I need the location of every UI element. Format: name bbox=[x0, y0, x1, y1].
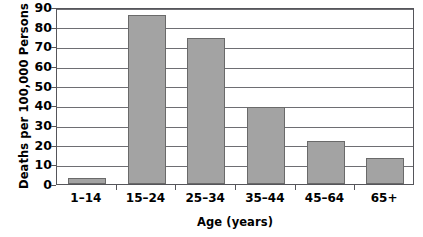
y-axis-tick-label: 60 bbox=[22, 61, 52, 74]
y-axis-tick-label: 40 bbox=[22, 100, 52, 113]
x-axis-tick-mark bbox=[354, 185, 355, 190]
x-axis-title: Age (years) bbox=[56, 215, 414, 229]
y-axis-tick-label: 70 bbox=[22, 41, 52, 54]
y-axis-tick-label: 80 bbox=[22, 21, 52, 34]
x-axis-tick-label: 1–14 bbox=[70, 191, 101, 205]
y-axis-tick-mark bbox=[51, 185, 56, 186]
y-axis-tick-label: 10 bbox=[22, 159, 52, 172]
y-axis-tick-label: 50 bbox=[22, 80, 52, 93]
x-axis-tick-mark bbox=[116, 185, 117, 190]
plot-area bbox=[56, 8, 414, 185]
x-axis-tick-mark bbox=[175, 185, 176, 190]
bar bbox=[187, 38, 225, 184]
bar bbox=[128, 15, 166, 184]
y-axis-tick-label: 90 bbox=[22, 2, 52, 15]
bar bbox=[366, 158, 404, 184]
y-axis-tick-label: 0 bbox=[22, 179, 52, 192]
bar-chart: Deaths per 100,000 Persons 0102030405060… bbox=[0, 0, 423, 237]
y-axis-tick-labels: 0102030405060708090 bbox=[22, 0, 52, 188]
x-axis-tick-label: 15–24 bbox=[126, 191, 165, 205]
bar bbox=[68, 178, 106, 184]
x-axis-tick-mark bbox=[295, 185, 296, 190]
x-axis-tick-label: 65+ bbox=[371, 191, 398, 205]
x-axis-tick-label: 25–34 bbox=[185, 191, 224, 205]
x-axis-tick-label: 45–64 bbox=[305, 191, 344, 205]
x-axis-tick-label: 35–44 bbox=[245, 191, 284, 205]
bar bbox=[307, 141, 345, 184]
y-axis-tick-label: 30 bbox=[22, 120, 52, 133]
bars-layer bbox=[57, 9, 413, 184]
bar bbox=[247, 107, 285, 184]
y-axis-tick-label: 20 bbox=[22, 139, 52, 152]
x-axis-tick-mark bbox=[235, 185, 236, 190]
